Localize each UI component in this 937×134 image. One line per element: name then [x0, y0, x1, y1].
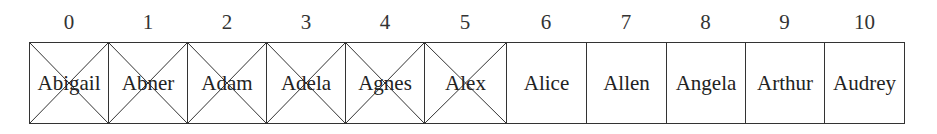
array-cell-crossed: Adela: [266, 42, 346, 124]
index-label: 9: [745, 10, 824, 35]
cell-name: Adam: [188, 43, 266, 123]
array-cell: Alice: [506, 42, 587, 124]
index-label: 1: [108, 10, 188, 35]
array-cell-crossed: Agnes: [345, 42, 425, 124]
array-cell: Arthur: [745, 42, 825, 124]
index-label: 8: [666, 10, 745, 35]
index-label: 0: [29, 10, 109, 35]
index-label: 4: [345, 10, 425, 35]
index-label: 6: [506, 10, 586, 35]
cell-name: Agnes: [346, 43, 424, 123]
cell-name: Alex: [425, 43, 506, 123]
cell-name: Arthur: [746, 43, 824, 123]
cell-name: Adela: [267, 43, 345, 123]
index-label: 5: [424, 10, 506, 35]
index-label: 10: [824, 10, 905, 35]
cell-name: Allen: [587, 43, 666, 123]
array-cell-crossed: Abigail: [29, 42, 109, 124]
array-cell-crossed: Alex: [424, 42, 507, 124]
cell-name: Audrey: [825, 43, 904, 123]
array-cell-crossed: Adam: [187, 42, 267, 124]
index-label: 3: [266, 10, 346, 35]
index-label: 2: [187, 10, 267, 35]
index-label: 7: [586, 10, 666, 35]
array-cell-crossed: Abner: [108, 42, 188, 124]
cell-name: Alice: [507, 43, 586, 123]
array-cell: Allen: [586, 42, 667, 124]
sorted-array-diagram: 0 1 2 3 4 5 6 7 8 9 10 Abigail Abner Ada…: [0, 0, 937, 134]
array-cell: Audrey: [824, 42, 905, 124]
cell-name: Abner: [109, 43, 187, 123]
cell-name: Angela: [667, 43, 745, 123]
array-cell: Angela: [666, 42, 746, 124]
cell-name: Abigail: [30, 43, 108, 123]
